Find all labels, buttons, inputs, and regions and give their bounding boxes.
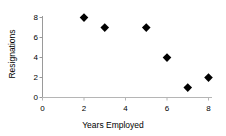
data-point [142, 23, 151, 32]
x-tick-label-6: 6 [160, 104, 174, 113]
scatter-chart: 8 6 4 2 0 0 2 4 6 8 Years Employed Resig… [0, 0, 226, 136]
y-tick-label-2: 2 [24, 73, 38, 82]
data-point [163, 53, 172, 62]
data-point [183, 83, 192, 92]
x-tick-label-0: 0 [36, 104, 50, 113]
y-tick-label-0: 0 [24, 93, 38, 102]
x-tick-label-8: 8 [202, 104, 216, 113]
x-tick-label-4: 4 [119, 104, 133, 113]
x-axis-title: Years Employed [0, 120, 226, 130]
y-axis-title-wrapper: Resignations [7, 7, 19, 101]
y-axis-title: Resignations [7, 7, 17, 101]
data-point [80, 13, 89, 22]
y-tick-label-8: 8 [24, 13, 38, 22]
data-point [204, 73, 213, 82]
y-tick-label-6: 6 [24, 33, 38, 42]
x-tick-label-2: 2 [77, 104, 91, 113]
data-point [100, 23, 109, 32]
y-tick-label-4: 4 [24, 53, 38, 62]
data-point-group [80, 13, 213, 92]
